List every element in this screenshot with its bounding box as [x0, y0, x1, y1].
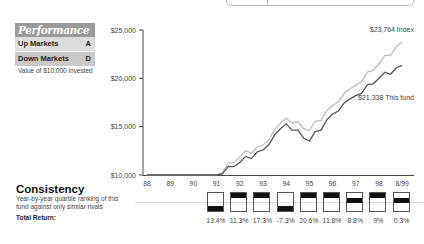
fund-end-label: $21,338 This fund: [358, 94, 414, 101]
series-line-this-fund: [147, 65, 402, 175]
y-axis: $10,000$15,000$20,000$25,000: [111, 27, 143, 179]
y-tick-label: $20,000: [111, 75, 136, 82]
total-return-label: Total Return:: [16, 214, 196, 221]
y-tick-label: $10,000: [111, 172, 136, 179]
x-tick-label: 92: [236, 180, 244, 187]
quartile-box: [393, 192, 410, 212]
quartile-box: [230, 192, 247, 212]
y-tick-label: $15,000: [111, 123, 136, 130]
quartile-box: [323, 192, 340, 212]
quartile-box: [277, 192, 294, 212]
chart-lines: [147, 42, 402, 175]
x-tick-label: 93: [259, 180, 267, 187]
x-tick-label: 94: [282, 180, 290, 187]
quartile-box: [369, 192, 386, 212]
index-end-label: $23,764 Index: [370, 26, 415, 33]
series-labels: $23,764 Index$21,338 This fund: [358, 26, 414, 101]
x-tick-label: 8/99: [396, 180, 409, 187]
x-tick-label: 98: [375, 180, 383, 187]
consistency-desc-2: fund against only similar rivals: [16, 203, 196, 211]
quartile-box: [253, 192, 270, 212]
series-line-index: [147, 42, 402, 175]
consistency-title: Consistency: [16, 183, 196, 195]
quartile-box: [346, 192, 363, 212]
total-return-value: 0.3%: [387, 217, 417, 224]
x-tick-label: 97: [352, 180, 360, 187]
x-tick-label: 91: [213, 180, 221, 187]
quartile-box: [300, 192, 317, 212]
quartile-box: [207, 192, 224, 212]
x-tick-label: 95: [306, 180, 314, 187]
x-tick-label: 96: [329, 180, 337, 187]
y-tick-label: $25,000: [111, 27, 136, 34]
